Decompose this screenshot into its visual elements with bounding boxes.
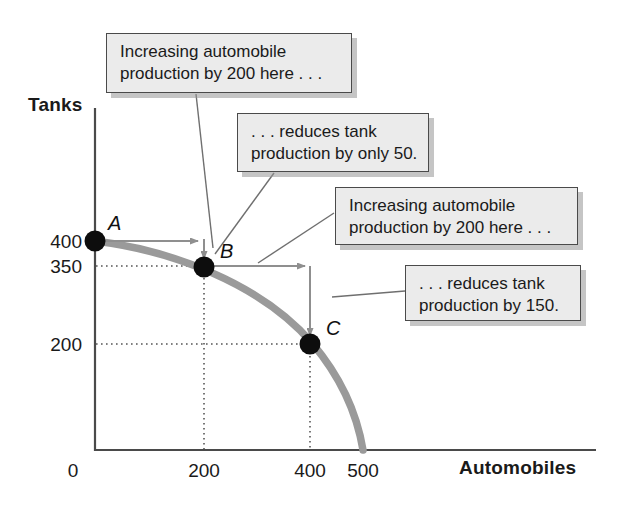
leader-line-callout-3 bbox=[258, 213, 334, 263]
point-label-c: C bbox=[326, 317, 340, 340]
point-label-a: A bbox=[108, 212, 121, 235]
callout-1-line-2: production by 200 here . . . bbox=[120, 63, 340, 85]
x-tick-label-0: 0 bbox=[53, 460, 93, 482]
callout-2-line-1: . . . reduces tank bbox=[251, 121, 417, 143]
y-tick-label-350: 350 bbox=[20, 256, 82, 278]
x-tick-label-500: 500 bbox=[333, 460, 393, 482]
leader-line-callout-1 bbox=[196, 94, 213, 248]
y-axis-title: Tanks bbox=[28, 94, 83, 116]
point-label-b: B bbox=[220, 240, 233, 263]
x-axis-title: Automobiles bbox=[459, 457, 576, 479]
callout-4-line-2: production by 150. bbox=[419, 295, 569, 317]
data-point-a[interactable] bbox=[85, 231, 106, 252]
data-point-b[interactable] bbox=[194, 257, 215, 278]
callout-increase-auto-1: Increasing automobile production by 200 … bbox=[106, 33, 352, 93]
ppf-figure: Tanks Automobiles 400 350 200 0 200 400 … bbox=[0, 0, 638, 512]
callout-4-line-1: . . . reduces tank bbox=[419, 273, 569, 295]
callout-reduce-tank-50: . . . reduces tank production by only 50… bbox=[237, 113, 429, 172]
y-tick-label-400: 400 bbox=[20, 231, 82, 253]
callout-3-line-1: Increasing automobile bbox=[349, 195, 566, 217]
callout-2-line-2: production by only 50. bbox=[251, 143, 417, 165]
x-tick-label-400: 400 bbox=[280, 460, 340, 482]
callout-1-line-1: Increasing automobile bbox=[120, 41, 340, 63]
leader-line-callout-4 bbox=[332, 291, 405, 297]
x-tick-label-200: 200 bbox=[174, 460, 234, 482]
y-tick-label-200: 200 bbox=[20, 334, 82, 356]
callout-reduce-tank-150: . . . reduces tank production by 150. bbox=[405, 265, 581, 321]
callout-3-line-2: production by 200 here . . . bbox=[349, 217, 566, 239]
data-point-c[interactable] bbox=[300, 334, 321, 355]
ppf-curve bbox=[95, 241, 363, 450]
callout-increase-auto-2: Increasing automobile production by 200 … bbox=[335, 187, 578, 245]
